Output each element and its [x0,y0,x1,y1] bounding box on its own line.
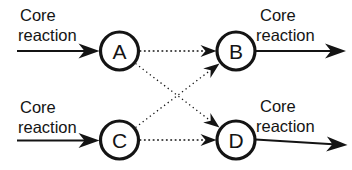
diagram-canvas: A B C D Core reaction Core reaction Core… [0,0,352,170]
node-d-label: D [228,129,243,152]
dotted-edge-arrowhead-icon-a-d [203,113,219,128]
core-reaction-label-bottom-right-line1: Core [260,97,296,115]
core-reaction-label-bottom-left-line2: reaction [18,118,77,136]
dotted-edge-a-d [136,64,210,121]
core-reaction-label-bottom-right-line2: reaction [256,117,315,135]
core-reaction-label-top-right-line1: Core [260,6,296,24]
output-arrow-line-bottom-right [256,140,334,145]
dotted-edge-arrowhead-icon-c-b [203,64,219,79]
core-reaction-label-top-left-line2: reaction [18,26,77,44]
node-b-label: B [229,40,243,63]
reaction-network-diagram: A B C D Core reaction Core reaction Core… [0,0,352,170]
dotted-edge-c-b [136,71,210,128]
core-reaction-label-bottom-left-line1: Core [20,98,56,116]
node-a-label: A [112,40,126,63]
node-c-label: C [112,129,127,152]
core-reaction-label-top-left-line1: Core [20,6,56,24]
core-reaction-label-top-right-line2: reaction [256,26,315,44]
